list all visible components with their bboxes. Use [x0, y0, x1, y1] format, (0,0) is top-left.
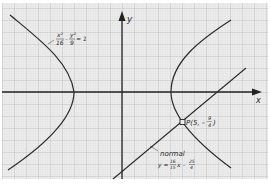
- hyperbola-diagram: x y x² 16 – y² 9 = 1 P(5, – 9 4 ) normal…: [0, 0, 270, 188]
- svg-text:= 1: = 1: [76, 35, 87, 42]
- grid: [2, 3, 268, 179]
- svg-text:x²: x²: [56, 31, 64, 38]
- svg-text:16: 16: [170, 159, 176, 164]
- svg-text:4: 4: [190, 165, 193, 170]
- y-axis-label: y: [126, 14, 133, 24]
- svg-text:x –: x –: [176, 161, 185, 168]
- x-axis-label: x: [255, 96, 261, 105]
- svg-text:y =: y =: [157, 161, 169, 169]
- svg-text:4: 4: [208, 122, 211, 128]
- svg-text:16: 16: [56, 39, 64, 46]
- svg-text:9: 9: [70, 39, 74, 46]
- svg-text:25: 25: [189, 159, 195, 164]
- svg-text:15: 15: [170, 165, 176, 170]
- normal-label-text: normal: [160, 150, 185, 158]
- svg-text:9: 9: [208, 115, 211, 121]
- svg-text:): ): [212, 119, 216, 127]
- point-p-marker: [180, 120, 185, 125]
- svg-text:–: –: [65, 35, 68, 42]
- svg-text:P(5, –: P(5, –: [186, 119, 206, 127]
